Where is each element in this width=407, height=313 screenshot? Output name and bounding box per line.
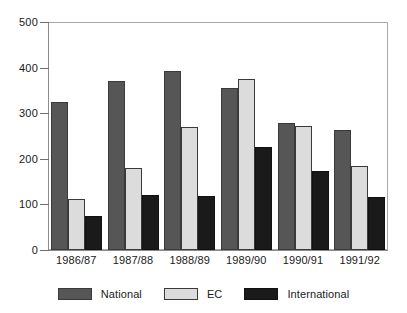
bar-international: [198, 196, 215, 250]
bar-national: [108, 81, 125, 250]
y-axis-tick: [40, 68, 49, 69]
international-swatch: [244, 288, 278, 300]
y-axis-tick-label: 300: [19, 108, 38, 119]
bar-international: [142, 195, 159, 250]
legend-label: National: [101, 288, 142, 300]
bar-ec: [68, 199, 85, 250]
bar-national: [164, 71, 181, 250]
legend-item-national[interactable]: National: [58, 288, 142, 300]
y-axis-tick-label: 500: [19, 17, 38, 28]
x-axis-tick-label: 1987/88: [105, 254, 162, 266]
bar-international: [255, 147, 272, 251]
bar-group: [221, 22, 272, 250]
bar-national: [334, 130, 351, 250]
bar-group: [278, 22, 329, 250]
y-axis-tick-label: 0: [32, 245, 38, 256]
x-axis-tick-label: 1991/92: [331, 254, 388, 266]
y-axis-tick-label: 400: [19, 63, 38, 74]
y-axis-tick-label: 100: [19, 199, 38, 210]
bar-ec: [125, 168, 142, 250]
bar-ec: [181, 127, 198, 250]
y-axis-tick: [40, 204, 49, 205]
ec-swatch: [164, 288, 198, 300]
x-axis-tick-label: 1988/89: [161, 254, 218, 266]
legend-item-ec[interactable]: EC: [164, 288, 222, 300]
bar-chart: 0100200300400500 1986/871987/881988/8919…: [0, 0, 407, 313]
y-axis-tick: [40, 159, 49, 160]
bar-international: [312, 171, 329, 250]
y-axis-tick: [40, 22, 49, 23]
y-axis-tick: [40, 113, 49, 114]
x-axis-tick-label: 1989/90: [218, 254, 275, 266]
y-axis-line: [48, 22, 49, 251]
x-axis-tick-label: 1986/87: [48, 254, 105, 266]
bar-group: [164, 22, 215, 250]
bar-international: [85, 216, 102, 250]
legend-label: EC: [207, 288, 222, 300]
bar-ec: [238, 79, 255, 250]
x-axis-line: [40, 250, 388, 251]
x-axis-tick-label: 1990/91: [275, 254, 332, 266]
y-axis-tick: [40, 250, 49, 251]
bar-ec: [351, 166, 368, 250]
bar-national: [221, 88, 238, 250]
bar-national: [51, 102, 68, 250]
legend-item-international[interactable]: International: [244, 288, 349, 300]
national-swatch: [58, 288, 92, 300]
legend-label: International: [287, 288, 349, 300]
bar-international: [368, 197, 385, 250]
y-axis-tick-label: 200: [19, 154, 38, 165]
bar-ec: [295, 126, 312, 250]
bar-group: [108, 22, 159, 250]
bar-national: [278, 123, 295, 250]
chart-legend: NationalECInternational: [0, 283, 407, 305]
bar-group: [334, 22, 385, 250]
bar-group: [51, 22, 102, 250]
